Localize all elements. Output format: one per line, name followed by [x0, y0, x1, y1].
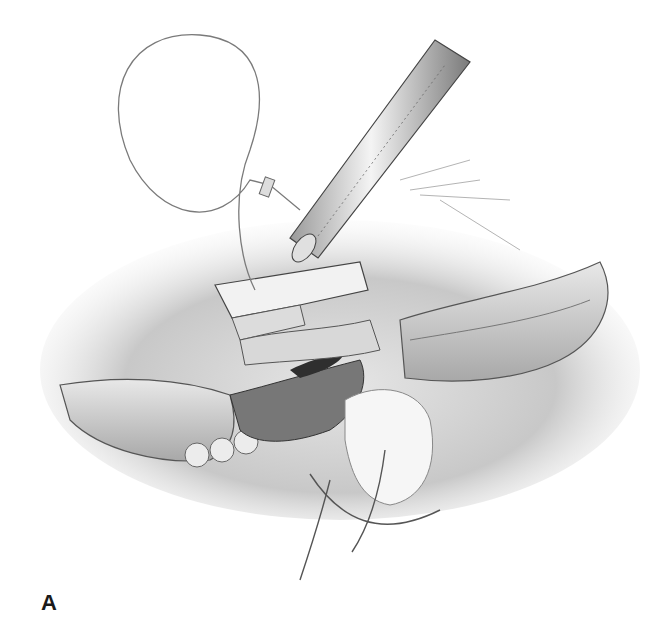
surgical-illustration — [0, 0, 661, 634]
panel-label: A — [41, 590, 57, 616]
